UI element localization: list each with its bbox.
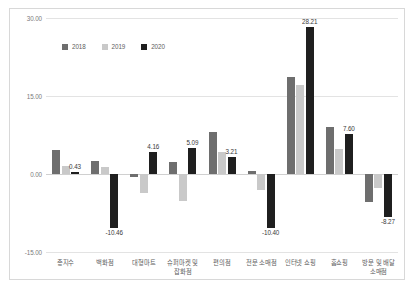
bar-group: [326, 18, 353, 252]
bar-group: [52, 18, 79, 252]
bar-2019[interactable]: [257, 174, 265, 190]
bar-group: [130, 18, 157, 252]
bar-group: [248, 18, 275, 252]
bar-2018[interactable]: [287, 77, 295, 174]
bar-group: [209, 18, 236, 252]
bar-group: [91, 18, 118, 252]
legend-label: 2018: [72, 43, 86, 50]
legend-item-2018[interactable]: 2018: [62, 43, 86, 50]
bar-2018[interactable]: [248, 171, 256, 174]
bar-2019[interactable]: [140, 174, 148, 193]
bar-2018[interactable]: [365, 174, 373, 202]
bar-value-label: -10.46: [106, 229, 123, 236]
y-axis-tick-label: 15.00: [27, 93, 42, 100]
legend-label: 2019: [112, 43, 126, 50]
bar-2018[interactable]: [130, 174, 138, 177]
bar-2019[interactable]: [335, 149, 343, 174]
chart-legend: 201820192020: [62, 43, 165, 50]
chart-container: 30.0015.000.00-15.00 0.43-10.464.165.093…: [9, 8, 405, 280]
bar-2018[interactable]: [169, 162, 177, 174]
bar-2020[interactable]: [384, 174, 392, 217]
bar-2020[interactable]: [345, 134, 353, 174]
x-axis-category-label: 방문 및 배달소매점: [355, 258, 401, 276]
plot-area: 30.0015.000.00-15.00 0.43-10.464.165.093…: [46, 18, 398, 252]
gridline: -15.00: [46, 252, 398, 253]
bar-2019[interactable]: [296, 85, 304, 174]
bar-value-label: 7.60: [343, 125, 355, 132]
bar-2019[interactable]: [101, 167, 109, 174]
bar-2020[interactable]: [228, 157, 236, 174]
bar-2020[interactable]: [71, 172, 79, 174]
bar-2018[interactable]: [209, 132, 217, 174]
legend-swatch-icon: [62, 44, 68, 50]
bar-2018[interactable]: [91, 161, 99, 174]
bar-2019[interactable]: [179, 174, 187, 201]
bar-2019[interactable]: [374, 174, 382, 188]
legend-label: 2020: [151, 43, 165, 50]
bar-2020[interactable]: [188, 148, 196, 174]
bar-value-label: -10.40: [262, 229, 279, 236]
legend-swatch-icon: [102, 44, 108, 50]
bar-value-label: 28.21: [302, 18, 317, 25]
y-axis-tick-label: -15.00: [25, 249, 42, 256]
bar-value-label: 5.09: [186, 139, 198, 146]
bar-value-label: -8.27: [381, 218, 395, 225]
bar-value-label: 3.21: [226, 148, 238, 155]
bar-group: [169, 18, 196, 252]
bar-value-label: 0.43: [69, 163, 81, 170]
bar-2020[interactable]: [149, 152, 157, 174]
y-axis-tick-label: 0.00: [30, 171, 42, 178]
legend-item-2019[interactable]: 2019: [102, 43, 126, 50]
bar-group: [287, 18, 314, 252]
bar-2020[interactable]: [267, 174, 275, 228]
bar-series-group: 0.43-10.464.165.093.21-10.4028.217.60-8.…: [46, 18, 398, 252]
bar-value-label: 4.16: [147, 143, 159, 150]
bar-2020[interactable]: [110, 174, 118, 228]
bar-2018[interactable]: [52, 150, 60, 174]
legend-item-2020[interactable]: 2020: [141, 43, 165, 50]
x-axis-labels: 총지수백화점대형마트슈퍼마켓 및잡화점편의점전문 소매점인터넷 쇼핑홈쇼핑방문 …: [46, 258, 398, 282]
bar-group: [365, 18, 392, 252]
y-axis-tick-label: 30.00: [27, 15, 42, 22]
bar-2020[interactable]: [306, 27, 314, 174]
legend-swatch-icon: [141, 44, 147, 50]
bar-2018[interactable]: [326, 127, 334, 174]
